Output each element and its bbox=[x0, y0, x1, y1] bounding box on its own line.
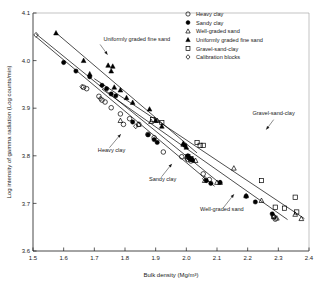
x-tick-label: 1.5 bbox=[29, 255, 38, 261]
legend-label: Well-graded sand bbox=[196, 28, 240, 34]
legend-item[interactable]: Uniformly graded fine sand bbox=[186, 37, 263, 43]
data-point bbox=[104, 87, 108, 91]
gamma-radiation-bulk-density-scatter-plot: 1.51.61.71.81.92.02.12.22.32.43.63.73.83… bbox=[0, 0, 316, 283]
annotation-arrow-head bbox=[104, 51, 107, 55]
annotation-label: Uniformly graded fine sand bbox=[103, 36, 170, 42]
legend-item[interactable]: Gravel-sand-clay bbox=[186, 46, 238, 52]
data-point bbox=[74, 69, 78, 73]
data-point bbox=[293, 195, 297, 199]
data-point bbox=[130, 100, 135, 104]
legend: Heavy claySandy clayWell-graded sandUnif… bbox=[186, 11, 263, 60]
legend-marker bbox=[186, 55, 190, 60]
legend-marker bbox=[186, 38, 190, 42]
legend-marker bbox=[186, 12, 190, 16]
y-tick-label: 3.6 bbox=[22, 248, 31, 254]
annotation-label: Well-graded sand bbox=[200, 206, 244, 212]
trend-line bbox=[55, 32, 197, 153]
y-axis-ticks: 3.63.73.83.94.04.1 bbox=[22, 10, 37, 254]
data-point bbox=[118, 112, 123, 117]
x-tick-label: 1.7 bbox=[90, 255, 99, 261]
annotation-arrow-head bbox=[231, 194, 234, 198]
data-point bbox=[209, 181, 213, 185]
data-point bbox=[161, 150, 166, 155]
legend-label: Calibration blocks bbox=[196, 54, 240, 60]
x-tick-label: 2.2 bbox=[243, 255, 252, 261]
y-tick-label: 3.7 bbox=[22, 201, 31, 207]
x-axis-title: Bulk density (Mg/m³) bbox=[143, 272, 198, 278]
data-point bbox=[201, 143, 205, 147]
data-point bbox=[273, 205, 277, 209]
data-point bbox=[109, 105, 114, 110]
series-heavy-clay bbox=[81, 85, 277, 221]
data-point bbox=[131, 120, 135, 124]
annotation-arrow-head bbox=[169, 164, 172, 168]
data-point bbox=[146, 133, 150, 137]
legend-label: Heavy clay bbox=[196, 11, 224, 17]
data-point bbox=[114, 94, 118, 98]
annotation-arrow-head bbox=[266, 126, 269, 130]
legend-label: Uniformly graded fine sand bbox=[196, 37, 263, 43]
y-tick-label: 3.8 bbox=[22, 153, 31, 159]
legend-item[interactable]: Well-graded sand bbox=[186, 28, 240, 34]
data-point bbox=[299, 216, 304, 220]
data-point bbox=[198, 143, 202, 147]
data-point bbox=[149, 119, 154, 123]
legend-label: Gravel-sand-clay bbox=[196, 46, 238, 52]
data-point bbox=[62, 60, 66, 64]
legend-marker bbox=[186, 29, 190, 33]
x-tick-label: 2.4 bbox=[305, 255, 314, 261]
legend-label: Sandy clay bbox=[196, 20, 224, 26]
data-point bbox=[231, 166, 236, 170]
y-tick-label: 3.9 bbox=[22, 105, 31, 111]
chart-figure: 1.51.61.71.81.92.02.12.22.32.43.63.73.83… bbox=[0, 0, 316, 283]
data-point bbox=[118, 88, 123, 92]
annotation-label: Gravel-sand-clay bbox=[252, 110, 294, 116]
data-point bbox=[112, 85, 117, 89]
x-tick-label: 1.6 bbox=[59, 255, 68, 261]
legend-marker bbox=[186, 21, 190, 25]
data-point bbox=[106, 63, 111, 67]
x-axis-ticks: 1.51.61.71.81.92.02.12.22.32.4 bbox=[29, 248, 314, 262]
data-point bbox=[118, 118, 123, 122]
data-point bbox=[253, 200, 257, 204]
x-tick-label: 1.9 bbox=[151, 255, 160, 261]
y-axis-title: Log intensity of gamma radiation (Log co… bbox=[6, 65, 12, 198]
data-point bbox=[54, 30, 59, 34]
legend-item[interactable]: Sandy clay bbox=[186, 20, 224, 26]
x-tick-label: 2.0 bbox=[182, 255, 191, 261]
y-tick-label: 4.1 bbox=[22, 10, 31, 16]
data-point bbox=[100, 83, 104, 87]
x-tick-label: 2.3 bbox=[274, 255, 283, 261]
data-point bbox=[201, 172, 206, 177]
data-point bbox=[81, 58, 86, 62]
annotation-label: Heavy clay bbox=[98, 147, 126, 153]
trend-lines bbox=[36, 32, 304, 220]
data-point bbox=[109, 69, 114, 73]
legend-item[interactable]: Calibration blocks bbox=[186, 54, 240, 60]
x-tick-label: 1.8 bbox=[121, 255, 130, 261]
data-point bbox=[110, 64, 115, 68]
plot-annotations: Uniformly graded fine sandGravel-sand-cl… bbox=[98, 36, 295, 212]
x-tick-label: 2.1 bbox=[213, 255, 222, 261]
annotation-label: Sandy clay bbox=[149, 176, 177, 182]
data-point bbox=[195, 140, 199, 144]
series-sandy-clay bbox=[62, 60, 275, 216]
legend-item[interactable]: Heavy clay bbox=[186, 11, 224, 17]
legend-marker bbox=[186, 46, 190, 50]
data-point bbox=[124, 95, 129, 99]
data-point bbox=[259, 178, 263, 182]
data-point bbox=[147, 107, 152, 111]
series-calibration-blocks bbox=[34, 32, 276, 218]
data-point bbox=[87, 71, 92, 75]
y-tick-label: 4.0 bbox=[22, 58, 31, 64]
data-point bbox=[155, 140, 159, 144]
trend-line bbox=[102, 89, 288, 219]
data-point bbox=[109, 92, 113, 96]
